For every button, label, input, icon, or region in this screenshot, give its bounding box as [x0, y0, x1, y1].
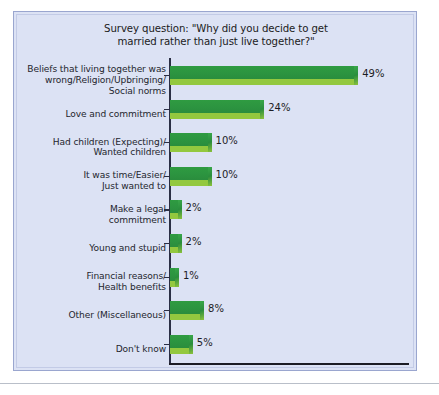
category-label-line: Beliefs that living together was	[20, 64, 166, 75]
bar-end-cap	[189, 335, 193, 354]
bar[interactable]	[170, 200, 178, 219]
plot-area: Beliefs that living together waswrong/Re…	[14, 56, 418, 368]
axis-tick	[164, 243, 169, 244]
bar-end-cap	[175, 268, 179, 287]
category-label: It was time/Easier/Just wanted to	[20, 170, 166, 191]
bar-row: Financial reasons/Health benefits1%	[14, 268, 418, 300]
bar-front-face	[170, 146, 208, 152]
bar-value-label: 2%	[186, 236, 202, 247]
bar-top-face	[170, 167, 208, 180]
bar[interactable]	[170, 133, 208, 152]
axis-tick	[164, 75, 169, 76]
category-label-line: It was time/Easier/	[20, 170, 166, 181]
bar-value-label: 8%	[208, 303, 224, 314]
category-label-line: Had children (Expecting)/	[20, 137, 166, 148]
bar-row: Other (Miscellaneous)8%	[14, 301, 418, 333]
bar-row: Make a legalcommitment2%	[14, 200, 418, 232]
bar-end-cap	[260, 100, 264, 119]
bar[interactable]	[170, 167, 208, 186]
axis-tick	[164, 176, 169, 177]
category-label: Beliefs that living together waswrong/Re…	[20, 64, 166, 96]
bar[interactable]	[170, 335, 189, 354]
category-label-line: Wanted children	[20, 147, 166, 158]
axis-tick	[164, 344, 169, 345]
survey-chart-panel: Survey question: "Why did you decide to …	[13, 11, 417, 371]
axis-tick	[164, 142, 169, 143]
bar-end-cap	[178, 200, 182, 219]
bar-front-face	[170, 79, 354, 85]
bar-top-face	[170, 301, 200, 314]
bar[interactable]	[170, 66, 354, 85]
category-label-line: Financial reasons/	[20, 271, 166, 282]
category-label: Young and stupid	[20, 243, 166, 254]
bar-value-label: 10%	[216, 135, 238, 146]
axis-tick	[164, 310, 169, 311]
bar-value-label: 49%	[362, 68, 384, 79]
bar-top-face	[170, 133, 208, 146]
page-divider	[0, 383, 439, 384]
bar[interactable]	[170, 100, 260, 119]
bar-top-face	[170, 234, 178, 247]
bar-top-face	[170, 100, 260, 113]
bar-end-cap	[208, 167, 212, 186]
chart-title: Survey question: "Why did you decide to …	[54, 22, 378, 48]
axis-tick	[164, 209, 169, 210]
bar-row: It was time/Easier/Just wanted to10%	[14, 167, 418, 199]
category-label-line: Make a legal	[20, 204, 166, 215]
category-label: Love and commitment	[20, 109, 166, 120]
bar-value-label: 10%	[216, 169, 238, 180]
category-label: Other (Miscellaneous)	[20, 310, 166, 321]
bar-end-cap	[354, 66, 358, 85]
category-label: Financial reasons/Health benefits	[20, 271, 166, 292]
bar-value-label: 24%	[268, 102, 290, 113]
bar-end-cap	[178, 234, 182, 253]
bar-value-label: 5%	[197, 337, 213, 348]
bar-front-face	[170, 180, 208, 186]
category-label-line: Social norms	[20, 86, 166, 97]
bar-row: Love and commitment24%	[14, 100, 418, 132]
bar[interactable]	[170, 234, 178, 253]
bar-front-face	[170, 348, 189, 354]
bar-row: Young and stupid2%	[14, 234, 418, 266]
category-label: Had children (Expecting)/Wanted children	[20, 137, 166, 158]
category-label-line: Other (Miscellaneous)	[20, 310, 166, 321]
bar-top-face	[170, 335, 189, 348]
axis-tick	[164, 277, 169, 278]
axis-tick	[164, 109, 169, 110]
category-label-line: Don't know	[20, 344, 166, 355]
bar-value-label: 2%	[186, 202, 202, 213]
category-label: Make a legalcommitment	[20, 204, 166, 225]
bar-row: Beliefs that living together waswrong/Re…	[14, 66, 418, 98]
category-label-line: Love and commitment	[20, 109, 166, 120]
chart-title-line-1: Survey question: "Why did you decide to …	[54, 22, 378, 35]
category-label-line: wrong/Religion/Upbringing/	[20, 75, 166, 86]
bar-value-label: 1%	[183, 270, 199, 281]
bar-end-cap	[208, 133, 212, 152]
bar-front-face	[170, 247, 178, 253]
bar-end-cap	[200, 301, 204, 320]
category-label-line: Young and stupid	[20, 243, 166, 254]
chart-title-line-2: married rather than just live together?"	[54, 35, 378, 48]
bar[interactable]	[170, 268, 175, 287]
bar-top-face	[170, 200, 178, 213]
bar-front-face	[170, 113, 260, 119]
bar-front-face	[170, 314, 200, 320]
category-label: Don't know	[20, 344, 166, 355]
category-label-line: Health benefits	[20, 282, 166, 293]
category-label-line: Just wanted to	[20, 181, 166, 192]
bar-front-face	[170, 213, 178, 219]
bar-row: Had children (Expecting)/Wanted children…	[14, 133, 418, 165]
bar-row: Don't know5%	[14, 335, 418, 367]
bar-top-face	[170, 66, 354, 79]
bar[interactable]	[170, 301, 200, 320]
category-label-line: commitment	[20, 215, 166, 226]
